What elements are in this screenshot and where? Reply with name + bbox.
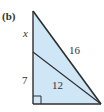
- label-7: 7: [22, 74, 28, 86]
- label-12: 12: [52, 79, 63, 91]
- panel-label: (b): [2, 10, 16, 23]
- label-16: 16: [69, 44, 81, 56]
- triangle-diagram: (b) x 7 16 12: [0, 0, 104, 112]
- label-x: x: [22, 27, 28, 39]
